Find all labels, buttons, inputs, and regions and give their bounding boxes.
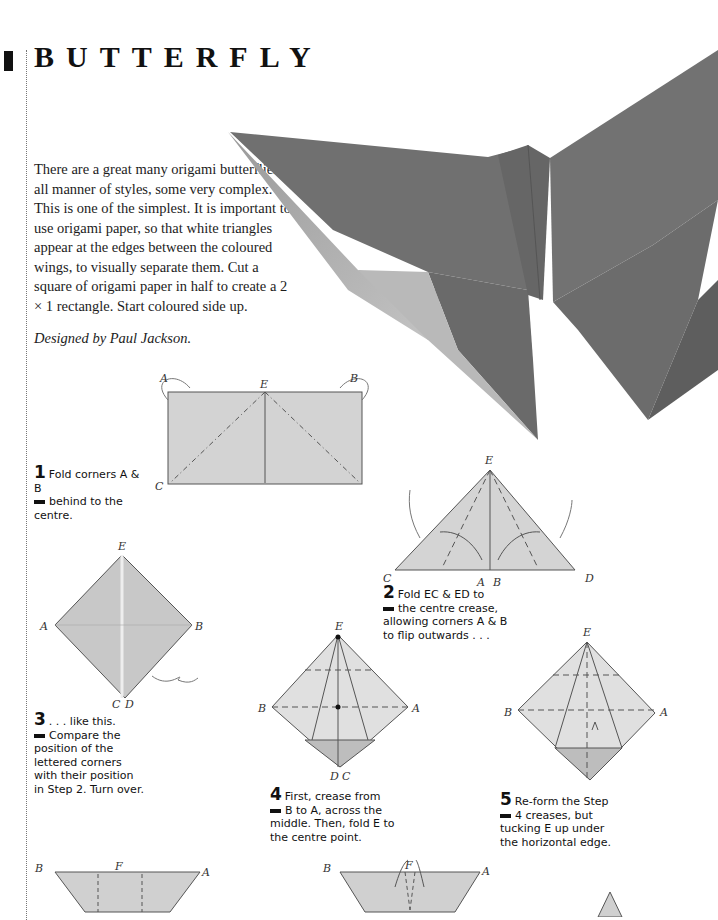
label-c: C bbox=[112, 698, 121, 710]
label-e: E bbox=[582, 626, 591, 639]
label-b: B bbox=[194, 620, 203, 633]
diagram-step-5: E B A bbox=[490, 620, 718, 790]
label-f: F bbox=[114, 860, 123, 873]
label-b: B bbox=[322, 862, 331, 875]
step-4-caption: 4First, crease fromB to A, across the mi… bbox=[270, 787, 395, 844]
diagram-step-4: E B A D C bbox=[250, 615, 450, 785]
label-d: D bbox=[124, 698, 134, 710]
step-3-caption: 3. . . like this.Compare the position of… bbox=[34, 712, 144, 796]
label-e: E bbox=[334, 620, 343, 633]
diagram-step-1: A B E C bbox=[150, 370, 380, 490]
label-a: A bbox=[659, 706, 668, 719]
label-a: A bbox=[39, 620, 48, 633]
label-a: A bbox=[159, 372, 168, 385]
label-b: B bbox=[257, 702, 266, 715]
label-a: A bbox=[481, 865, 490, 878]
label-b: B bbox=[349, 372, 358, 385]
title-marker bbox=[4, 51, 13, 71]
margin-dotted-rule bbox=[26, 50, 27, 920]
label-f: F bbox=[404, 859, 413, 872]
diagram-step-7: B F A bbox=[320, 855, 500, 917]
label-c: C bbox=[342, 770, 351, 783]
label-a: A bbox=[201, 866, 210, 879]
step-1-caption: 1Fold corners A & Bbehind to the centre. bbox=[34, 465, 144, 522]
diagram-step-6: B F A bbox=[30, 860, 230, 917]
label-a: A bbox=[411, 702, 420, 715]
label-c: C bbox=[155, 480, 164, 490]
label-d: D bbox=[329, 770, 339, 783]
label-d: D bbox=[584, 572, 594, 585]
diagram-step-2: E C A B D bbox=[380, 450, 610, 590]
step-5-caption: 5Re-form the Step4 creases, but tucking … bbox=[500, 792, 625, 849]
diagram-step-8-partial bbox=[580, 890, 640, 917]
label-e: E bbox=[259, 378, 268, 391]
label-b: B bbox=[34, 862, 43, 875]
diagram-step-3: E A B C D bbox=[30, 530, 230, 710]
label-e: E bbox=[117, 540, 126, 553]
label-e: E bbox=[484, 454, 493, 467]
label-b: B bbox=[503, 706, 512, 719]
designer-credit: Designed by Paul Jackson. bbox=[34, 330, 191, 347]
